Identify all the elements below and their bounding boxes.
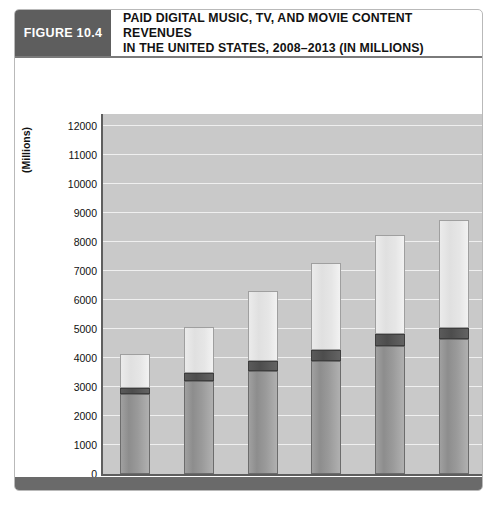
bar-segment-digital-movies [248,361,278,371]
y-tick-label: 5000 [41,324,97,334]
bar-2009 [184,327,214,474]
bar-2012 [375,234,405,474]
plot-area [101,114,483,476]
y-tick-label: 12000 [41,121,97,131]
y-tick-label: 10000 [41,179,97,189]
bar-segment-digital-music [120,394,150,474]
y-tick-label: 1000 [41,440,97,450]
bar-segment-digital-movies [120,388,150,394]
bar-group [103,114,483,474]
bar-segment-digital-movies [439,328,469,339]
bar-segment-digital-movies [375,334,405,346]
bar-segment-online-tv [120,354,150,388]
bar-segment-digital-movies [311,350,341,362]
y-tick-label: 4000 [41,353,97,363]
bar-2013 [439,220,469,474]
bar-segment-online-tv [439,220,469,328]
bar-segment-digital-music [248,371,278,474]
y-tick-label: 6000 [41,295,97,305]
bar-segment-digital-music [184,381,214,474]
bar-segment-online-tv [248,291,278,361]
bar-segment-online-tv [375,235,405,335]
y-tick-label: 11000 [41,150,97,160]
y-tick-label: 9000 [41,208,97,218]
figure-footer-bar [15,477,482,490]
bar-2010 [248,291,278,474]
bar-segment-digital-movies [184,373,214,381]
y-tick-label: 2000 [41,411,97,421]
figure-header: FIGURE 10.4 PAID DIGITAL MUSIC, TV, AND … [15,10,482,58]
figure-page: FIGURE 10.4 PAID DIGITAL MUSIC, TV, AND … [0,0,497,513]
bar-segment-digital-music [311,361,341,474]
y-axis-tick-labels: 0100020003000400050006000700080009000100… [37,114,97,474]
y-tick-label: 8000 [41,237,97,247]
bar-segment-digital-music [375,346,405,474]
bar-2008 [120,354,150,474]
figure-number-tag: FIGURE 10.4 [15,10,111,56]
bar-segment-digital-music [439,339,469,474]
figure-card: FIGURE 10.4 PAID DIGITAL MUSIC, TV, AND … [14,9,483,491]
y-tick-label: 7000 [41,266,97,276]
bar-segment-online-tv [311,263,341,350]
figure-title-line-2: IN THE UNITED STATES, 2008–2013 (IN MILL… [123,41,474,56]
figure-title-line-1: PAID DIGITAL MUSIC, TV, AND MOVIE CONTEN… [123,11,474,41]
bar-2011 [311,263,341,474]
y-tick-label: 3000 [41,382,97,392]
chart-area: (Millions) 01000200030004000500060007000… [15,58,482,490]
figure-title: PAID DIGITAL MUSIC, TV, AND MOVIE CONTEN… [111,10,482,56]
bar-segment-online-tv [184,327,214,373]
